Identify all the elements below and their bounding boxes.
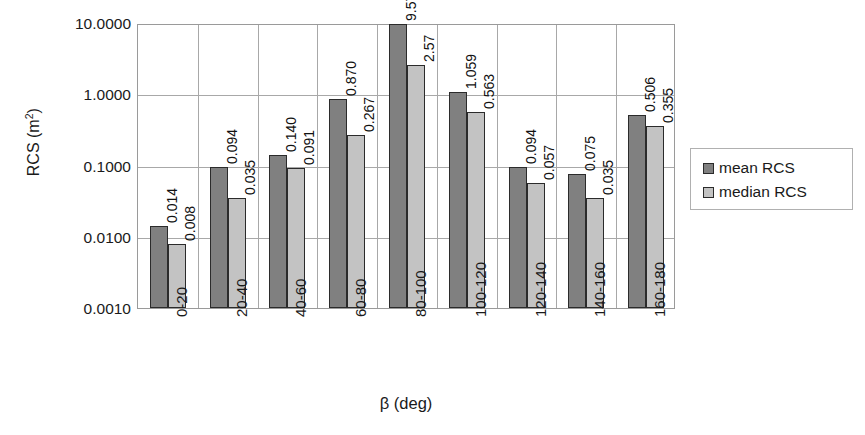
y-axis-tick-label: 0.1000	[35, 159, 131, 175]
y-axis-title-close: )	[25, 108, 42, 113]
x-axis-title: β (deg)	[0, 394, 812, 413]
bar-mean-0-20[interactable]	[150, 226, 168, 308]
bar-value-label: 0.035	[601, 160, 615, 195]
bar-mean-40-60[interactable]	[269, 155, 287, 308]
bar-value-label: 9.576	[404, 0, 418, 21]
bar-mean-20-40[interactable]	[210, 167, 228, 308]
gridline-group-separator	[317, 25, 318, 308]
bar-mean-80-100[interactable]	[389, 24, 407, 308]
bar-value-label: 0.008	[183, 206, 197, 241]
bar-value-label: 0.094	[524, 129, 538, 164]
bar-value-label: 0.506	[643, 77, 657, 112]
x-axis-tick-label: 0-20	[174, 287, 189, 317]
y-axis-title-text: RCS (m	[25, 119, 42, 176]
x-axis-tick-label: 60-80	[353, 279, 368, 317]
gridline-group-separator	[616, 25, 617, 308]
bar-mean-160-180[interactable]	[628, 115, 646, 308]
legend-label-mean: mean RCS	[719, 159, 795, 177]
y-axis-tick-label: 0.0010	[35, 301, 131, 317]
bar-value-label: 0.140	[284, 117, 298, 152]
legend-swatch-median-icon	[703, 187, 714, 198]
y-axis-tick-label: 0.0100	[35, 230, 131, 246]
x-axis-tick-label: 160-180	[652, 262, 667, 317]
bar-value-label: 0.870	[344, 61, 358, 96]
x-axis-tick-label: 80-100	[413, 270, 428, 317]
y-axis-title: RCS (m2)	[23, 57, 43, 227]
bar-value-label: 2.57	[422, 35, 436, 62]
legend-label-median: median RCS	[719, 183, 807, 201]
bar-mean-100-120[interactable]	[449, 92, 467, 308]
bar-value-label: 0.563	[482, 74, 496, 109]
bar-value-label: 0.267	[362, 97, 376, 132]
legend: mean RCS median RCS	[690, 148, 853, 210]
x-axis-tick-label: 140-160	[592, 262, 607, 317]
bar-value-label: 0.091	[302, 130, 316, 165]
y-axis-tick-label: 1.0000	[35, 87, 131, 103]
legend-entry-mean[interactable]: mean RCS	[703, 156, 852, 180]
gridline-group-separator	[497, 25, 498, 308]
gridline-group-separator	[437, 25, 438, 308]
bar-mean-60-80[interactable]	[329, 99, 347, 308]
bar-value-label: 0.057	[542, 145, 556, 180]
x-axis-tick-label: 120-140	[533, 262, 548, 317]
gridline-group-separator	[556, 25, 557, 308]
legend-entry-median[interactable]: median RCS	[703, 180, 852, 204]
x-axis-tick-label: 40-60	[293, 279, 308, 317]
bar-value-label: 0.075	[583, 136, 597, 171]
gridline-group-separator	[258, 25, 259, 308]
y-axis-tick-labels: 10.00001.00000.10000.01000.0010	[28, 0, 131, 435]
bar-value-label: 0.014	[165, 188, 179, 223]
gridline-group-separator	[377, 25, 378, 308]
bar-value-label: 1.059	[464, 54, 478, 89]
bar-value-label: 0.035	[243, 160, 257, 195]
x-axis-tick-label: 100-120	[473, 262, 488, 317]
bar-value-label: 0.355	[661, 88, 675, 123]
x-axis-tick-label: 20-40	[234, 279, 249, 317]
bar-value-label: 0.094	[225, 129, 239, 164]
y-axis-tick-label: 10.0000	[35, 16, 131, 32]
gridline-group-separator	[198, 25, 199, 308]
y-axis-title-exponent: 2	[23, 113, 35, 119]
bar-mean-140-160[interactable]	[568, 174, 586, 308]
bar-mean-120-140[interactable]	[509, 167, 527, 308]
chart-figure: 10.00001.00000.10000.01000.0010 RCS (m2)…	[0, 0, 865, 435]
legend-swatch-mean-icon	[703, 163, 714, 174]
